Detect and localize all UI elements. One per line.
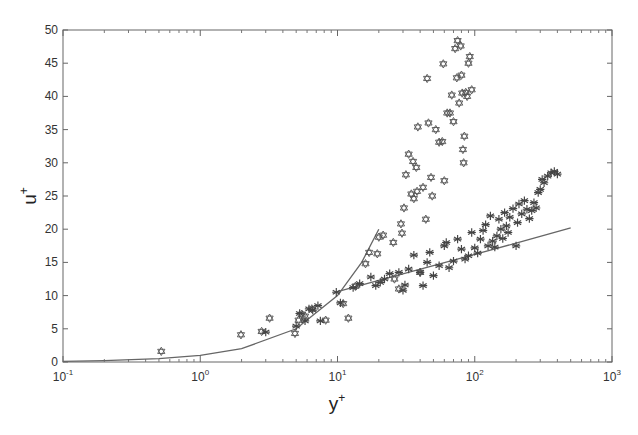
y-tick-label: 10 bbox=[45, 289, 59, 303]
x-tick-label: 103 bbox=[603, 368, 621, 384]
y-tick-label: 25 bbox=[45, 189, 59, 203]
y-tick-label: 15 bbox=[45, 255, 59, 269]
x-tick-label: 102 bbox=[466, 368, 484, 384]
y-tick-label: 0 bbox=[51, 355, 58, 369]
y-tick-label: 20 bbox=[45, 222, 59, 236]
y-tick-label: 50 bbox=[45, 23, 59, 37]
x-tick-label: 101 bbox=[329, 368, 347, 384]
y-axis-label: u+ bbox=[17, 187, 40, 205]
y-tick-label: 35 bbox=[45, 123, 59, 137]
x-tick-label: 100 bbox=[191, 368, 209, 384]
y-tick-label: 30 bbox=[45, 156, 59, 170]
plot-area bbox=[63, 30, 612, 362]
chart: 0510152025303540455010-1100101102103 y+ … bbox=[0, 0, 638, 435]
y-tick-label: 5 bbox=[51, 322, 58, 336]
y-tick-label: 45 bbox=[45, 56, 59, 70]
x-tick-label: 10-1 bbox=[53, 368, 74, 384]
y-tick-label: 40 bbox=[45, 89, 59, 103]
x-axis-label: y+ bbox=[329, 391, 346, 414]
